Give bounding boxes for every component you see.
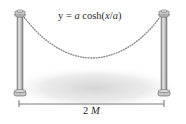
dimension-unit: M xyxy=(91,105,100,116)
formula-prefix: y = xyxy=(58,10,74,21)
ground-shadow xyxy=(7,66,183,110)
span-dimension-label: 2 M xyxy=(83,105,100,116)
hanging-rope xyxy=(24,17,160,58)
formula-close: ) xyxy=(118,10,122,21)
catenary-formula: y = a cosh(x/a) xyxy=(58,10,121,21)
dimension-value: 2 xyxy=(83,105,91,116)
catenary-diagram: y = a cosh(x/a) 2 M xyxy=(0,0,186,124)
formula-cosh: cosh( xyxy=(80,10,105,21)
